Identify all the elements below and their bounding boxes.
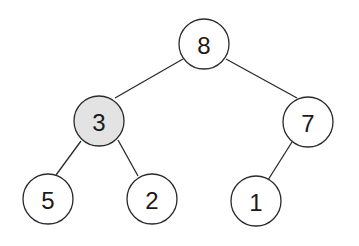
node-label: 8 [197, 32, 210, 59]
tree-node-3-highlighted: 3 [74, 96, 124, 146]
node-label: 5 [41, 187, 54, 214]
edge-7-1 [268, 142, 292, 180]
edge-8-3 [115, 59, 183, 98]
node-label: 2 [145, 187, 158, 214]
node-label: 1 [249, 189, 262, 216]
tree-node-1: 1 [231, 176, 281, 226]
binary-tree-diagram: 8 3 7 5 2 1 [0, 0, 359, 246]
edge-3-2 [118, 140, 138, 176]
edge-8-7 [226, 59, 297, 98]
tree-node-2: 2 [127, 174, 177, 224]
tree-node-8: 8 [179, 19, 229, 69]
node-label: 7 [301, 110, 314, 137]
tree-node-7: 7 [283, 97, 333, 147]
edge-3-5 [56, 141, 81, 175]
tree-node-5: 5 [23, 174, 73, 224]
node-label: 3 [92, 109, 105, 136]
